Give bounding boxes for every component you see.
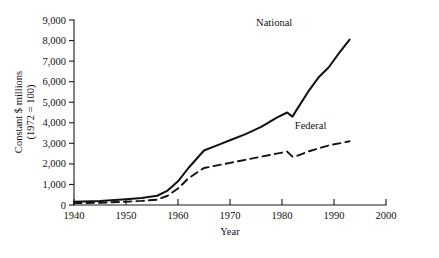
- y-tick-label: 1,000: [42, 179, 66, 190]
- x-tick-label: 2000: [376, 210, 397, 221]
- series-label-group: NationalFederal: [256, 17, 326, 130]
- y-tick-label: 0: [61, 200, 66, 211]
- y-tick-label: 6,000: [42, 76, 66, 87]
- y-tick-label: 2,000: [42, 158, 66, 169]
- series-label-federal: Federal: [295, 120, 327, 131]
- y-tick-label: 8,000: [42, 35, 66, 46]
- x-tick-label: 1970: [220, 210, 241, 221]
- y-axis-title-line1: Constant $ millions: [13, 71, 24, 153]
- x-tick-label: 1990: [324, 210, 345, 221]
- x-tick-label: 1940: [64, 210, 85, 221]
- y-tick-label: 3,000: [42, 138, 66, 149]
- x-tick-label: 1960: [168, 210, 189, 221]
- x-tick-label: 1950: [116, 210, 137, 221]
- y-tick-label: 9,000: [42, 15, 66, 26]
- chart-figure: 01,0002,0003,0004,0005,0006,0007,0008,00…: [0, 0, 439, 258]
- x-axis-title: Year: [220, 226, 240, 237]
- y-axis-title-line2: (1972 = 100): [25, 84, 37, 139]
- series-line-federal: [74, 141, 350, 203]
- series-label-national: National: [256, 17, 292, 28]
- y-tick-group: 01,0002,0003,0004,0005,0006,0007,0008,00…: [42, 15, 74, 211]
- x-tick-label: 1980: [272, 210, 293, 221]
- y-tick-label: 4,000: [42, 117, 66, 128]
- y-axis-title: Constant $ millions (1972 = 100): [13, 71, 37, 153]
- line-chart: 01,0002,0003,0004,0005,0006,0007,0008,00…: [0, 0, 439, 258]
- y-tick-label: 5,000: [42, 97, 66, 108]
- y-tick-label: 7,000: [42, 56, 66, 67]
- y-axis: 01,0002,0003,0004,0005,0006,0007,0008,00…: [42, 15, 74, 211]
